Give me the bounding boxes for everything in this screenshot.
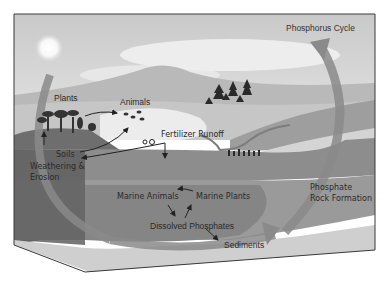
label-soils: Soils [56, 151, 75, 159]
label-phosphate: Phosphate [310, 184, 352, 192]
phosphorus-cycle-diagram [0, 0, 387, 281]
diagram-title: Phosphorus Cycle [286, 24, 355, 33]
label-plants: Plants [54, 94, 78, 103]
label-fertilizer-runoff: Fertilizer Runoff [161, 131, 224, 139]
label-weathering: Weathering & [30, 163, 85, 171]
sun-icon [35, 34, 63, 62]
label-marine-plants: Marine Plants [196, 193, 250, 201]
label-sediments: Sediments [224, 241, 264, 250]
label-erosion: Erosion [30, 174, 59, 182]
fertilizer-icon [143, 140, 155, 145]
label-animals: Animals [120, 98, 150, 107]
label-marine-animals: Marine Animals [117, 193, 179, 201]
label-rock-formation: Rock Formation [310, 195, 372, 203]
label-dissolved-phosphates: Dissolved Phosphates [150, 222, 234, 231]
